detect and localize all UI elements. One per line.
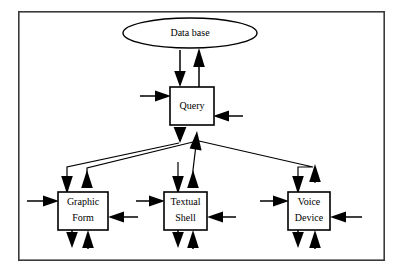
edge-database-to-query	[174, 50, 186, 87]
edge-external-to-graphic-form-left	[27, 195, 59, 206]
edge-graphic-form-to-external-down	[66, 230, 78, 248]
edge-query-downlink-trunk	[174, 127, 187, 143]
node-voice-device-label-line1: Voice	[298, 196, 321, 207]
edge-external-to-graphic-form-up	[82, 230, 94, 249]
node-voice-device[interactable]: Voice Device	[288, 192, 330, 230]
node-voice-device-label-line2: Device	[295, 212, 324, 223]
edge-external-to-textual-shell-left	[136, 195, 165, 206]
edge-query-to-database	[193, 48, 205, 87]
edge-external-to-voice-device-up	[309, 230, 321, 249]
edge-query-to-voice-device	[199, 141, 313, 194]
edge-query-to-textual-shell	[172, 162, 184, 194]
node-textual-shell-label-line2: Shell	[175, 212, 196, 223]
node-graphic-form-label-line2: Form	[72, 212, 94, 223]
edge-external-to-query-left	[140, 90, 171, 101]
edge-external-to-voice-device-left	[260, 195, 289, 206]
edge-external-to-voice-device-right	[330, 211, 362, 222]
architecture-diagram: Data base Query Graphic Form Textual She…	[0, 0, 400, 274]
node-query[interactable]: Query	[170, 87, 214, 125]
node-textual-shell[interactable]: Textual Shell	[164, 192, 207, 230]
edge-voice-device-to-external-down	[292, 230, 304, 248]
diagram-canvas: Data base Query Graphic Form Textual She…	[0, 0, 400, 274]
node-graphic-form-label-line1: Graphic	[67, 196, 100, 207]
edge-external-to-textual-shell-right	[207, 211, 236, 222]
node-database[interactable]: Data base	[123, 18, 257, 48]
node-graphic-form[interactable]: Graphic Form	[58, 192, 108, 230]
edge-external-to-query-right	[213, 110, 243, 121]
node-textual-shell-label-line1: Textual	[171, 196, 201, 207]
edge-textual-shell-to-external-down	[172, 230, 184, 248]
edge-query-to-graphic-form	[61, 143, 179, 194]
edge-textual-shell-to-query	[187, 145, 199, 188]
node-database-label: Data base	[170, 27, 210, 38]
edge-external-to-graphic-form-right	[108, 211, 138, 222]
edge-external-to-textual-shell-up	[187, 230, 199, 249]
node-query-label: Query	[180, 100, 205, 111]
